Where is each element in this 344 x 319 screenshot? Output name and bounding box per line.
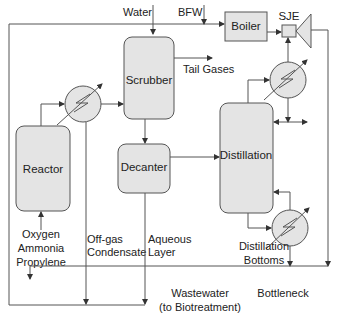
oxygen-label: Oxygen [22, 228, 60, 240]
scrubber-unit: Scrubber [124, 37, 174, 119]
overhead-vapor-stream [248, 80, 269, 103]
sje-unit: SJE [278, 10, 311, 48]
layer-label: Layer [148, 246, 176, 258]
reflux-distillate-stream [274, 98, 307, 122]
offgas-label: Off-gas [87, 233, 123, 245]
wastewater-header [30, 266, 328, 279]
biotreatment-label: (to Biotreatment) [159, 301, 241, 313]
tail-gases-label: Tail Gases [183, 63, 235, 75]
overhead-condenser [264, 60, 307, 100]
reactor-unit: Reactor [16, 126, 70, 211]
water-inlet-stream: Water [123, 5, 153, 34]
ammonia-label: Ammonia [18, 242, 65, 254]
sje-label: SJE [278, 10, 299, 22]
bottoms-to-reboiler-stream [248, 213, 271, 228]
wastewater-label: Wastewater [171, 287, 229, 299]
decanter-label: Decanter [121, 161, 168, 173]
boiler-label: Boiler [231, 20, 261, 32]
bfw-label: BFW [178, 6, 203, 18]
distillation-column: Distillation [220, 103, 273, 213]
scrubber-label: Scrubber [126, 74, 173, 86]
condensate-label: Condensate [87, 246, 146, 258]
reactor-to-cooler-stream [41, 104, 64, 126]
bottleneck-label: Bottleneck [257, 287, 309, 299]
distillation-bottoms-label-1: Distillation [239, 240, 289, 252]
distillation-label: Distillation [220, 149, 272, 161]
process-flow-diagram: Water BFW Boiler SJE Scrubber Tail Gases… [0, 0, 344, 319]
distillation-bottoms-label-2: Bottoms [244, 254, 285, 266]
reboiler-vapor-return-stream [274, 192, 290, 210]
bfw-inlet-stream: BFW [178, 5, 204, 24]
reactor-label: Reactor [23, 163, 63, 175]
sje-exhaust-stream [311, 30, 328, 266]
decanter-unit: Decanter [118, 144, 170, 193]
boiler-unit: Boiler [225, 12, 267, 41]
water-label: Water [123, 6, 152, 18]
tail-gases-stream: Tail Gases [174, 58, 235, 75]
reactor-feed-stream: Oxygen Ammonia Propylene [16, 212, 66, 268]
aqueous-label: Aqueous [148, 233, 192, 245]
